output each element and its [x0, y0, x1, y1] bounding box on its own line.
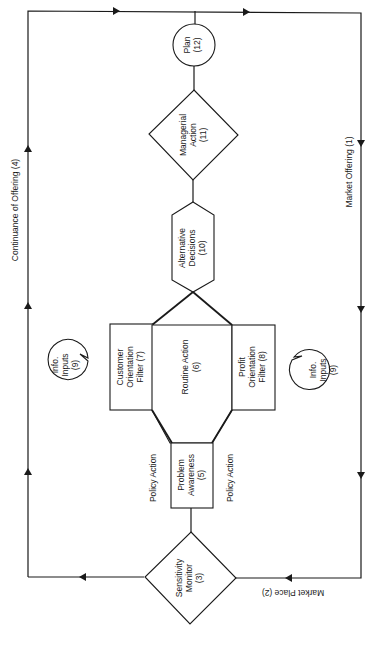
plan-number: (12): [192, 37, 202, 52]
problem-awareness-label: Awareness: [186, 454, 196, 496]
alternative-decisions-label: Alternative: [177, 228, 187, 268]
arrow-up-icon: [24, 145, 32, 152]
routine-action-label: Routine Action: [180, 339, 190, 394]
problem-awareness-number: (5): [196, 470, 206, 481]
info-inputs-label: Info.: [50, 357, 60, 374]
alternative-decisions-number: (10): [197, 240, 207, 255]
info-inputs-number: (9): [328, 365, 338, 376]
arrow-right-icon: [243, 8, 250, 16]
managerial-action-label: Action: [188, 123, 198, 147]
info-inputs-label: Inputs: [60, 353, 70, 376]
routine-action-node: Routine Action (6): [152, 325, 232, 443]
info-inputs-right-node: Info. Inputs (9): [290, 350, 338, 390]
alternative-decisions-label: Decisions: [187, 230, 197, 267]
profit-filter-label: Orientation: [247, 346, 257, 388]
customer-orientation-filter-node: Customer Orientation Filter (7): [110, 324, 153, 410]
arrow-left-icon: [79, 573, 86, 581]
market-offering-label: Market Offering (1): [344, 136, 354, 207]
policy-action-left-label: Policy Action: [148, 454, 158, 502]
arrow-down-icon: [357, 472, 365, 479]
arrow-down-icon: [357, 306, 365, 313]
policy-action-right-label: Policy Action: [225, 454, 235, 502]
sensitivity-monitor-label: Sensitivity: [174, 558, 184, 597]
customer-filter-label: Filter (7): [135, 351, 145, 383]
customer-filter-label: Customer: [115, 348, 125, 385]
profit-filter-label: Filter (8): [257, 351, 267, 383]
managerial-action-node: Managerial Action (11): [149, 90, 238, 180]
customer-filter-label: Orientation: [125, 346, 135, 388]
info-inputs-label: Info.: [308, 362, 318, 379]
profit-filter-label: Profit: [237, 356, 247, 376]
sensitivity-monitor-node: Sensitivity Monitor (3): [145, 532, 236, 624]
alternative-decisions-node: Alternative Decisions (10): [172, 202, 214, 292]
continuance-of-offering-label: Continuance of Offering (4): [10, 159, 20, 262]
arrow-right-icon: [113, 7, 120, 15]
managerial-action-label: Managerial: [178, 114, 188, 156]
routine-action-number: (6): [191, 362, 201, 373]
problem-awareness-label: Problem: [176, 459, 186, 491]
info-inputs-left-node: Info. Inputs (9): [48, 340, 88, 380]
arrow-up-icon: [24, 468, 32, 475]
arrow-down-icon: [357, 140, 365, 147]
arrow-up-icon: [24, 302, 32, 309]
plan-node: Plan (12): [173, 24, 215, 66]
profit-orientation-filter-node: Profit Orientation Filter (8): [232, 325, 275, 410]
connector-line: [193, 292, 232, 325]
arrow-left-icon: [285, 574, 292, 582]
problem-awareness-node: Problem Awareness (5): [171, 443, 213, 508]
info-inputs-label: Inputs: [318, 358, 328, 381]
connector-line: [152, 292, 193, 325]
market-place-label: Market Place (2): [262, 588, 325, 598]
sensitivity-monitor-label: Monitor: [184, 564, 194, 593]
plan-label: Plan: [182, 36, 192, 53]
managerial-action-number: (11): [198, 128, 208, 143]
sensitivity-monitor-number: (3): [194, 573, 204, 584]
info-inputs-number: (9): [70, 360, 80, 371]
marketing-flow-diagram: Plan (12) Managerial Action (11) Alterna…: [0, 0, 367, 646]
